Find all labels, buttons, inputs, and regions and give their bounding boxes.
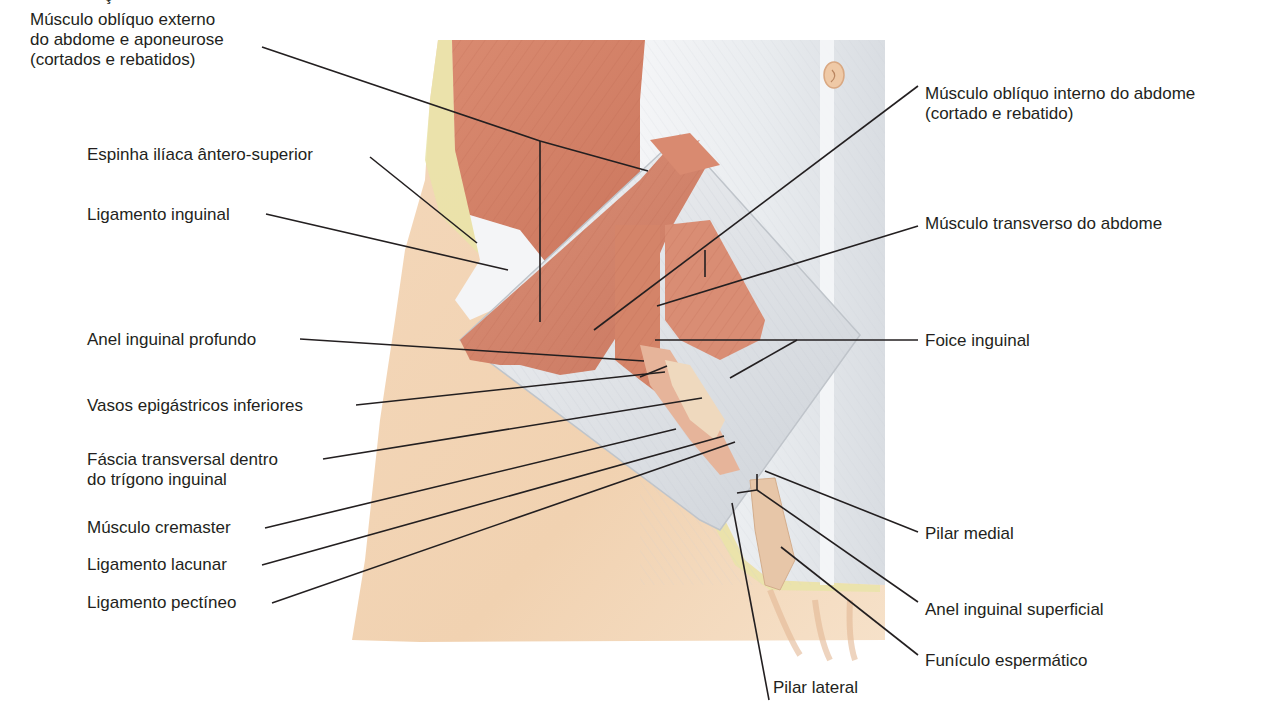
label-line: Vasos epigástricos inferiores bbox=[87, 396, 303, 416]
label-pectineal-ligament: Ligamento pectíneo bbox=[87, 593, 236, 613]
label-medial-crus: Pilar medial bbox=[925, 524, 1014, 544]
label-line: Músculo oblíquo externo bbox=[30, 10, 224, 30]
label-spermatic-cord: Funículo espermático bbox=[925, 651, 1088, 671]
label-line: Pilar lateral bbox=[773, 678, 858, 698]
label-deep-inguinal-ring: Anel inguinal profundo bbox=[87, 330, 256, 350]
label-inguinal-falx: Foice inguinal bbox=[925, 331, 1030, 351]
label-internal-oblique: Músculo oblíquo interno do abdome (corta… bbox=[925, 84, 1195, 124]
label-line: do trígono inguinal bbox=[87, 470, 278, 490]
label-lacunar-ligament: Ligamento lacunar bbox=[87, 555, 227, 575]
label-anterior-superior-iliac-spine: Espinha ilíaca ântero-superior bbox=[87, 145, 313, 165]
label-line: Espinha ilíaca ântero-superior bbox=[87, 145, 313, 165]
label-line: Funículo espermático bbox=[925, 651, 1088, 671]
label-line: do abdome e aponeurose bbox=[30, 30, 224, 50]
label-line: Ligamento pectíneo bbox=[87, 593, 236, 613]
inguinal-region-figure: ç bbox=[0, 0, 1275, 718]
label-line: Músculo oblíquo interno do abdome bbox=[925, 84, 1195, 104]
label-line: Fáscia transversal dentro bbox=[87, 450, 278, 470]
label-line: Pilar medial bbox=[925, 524, 1014, 544]
label-inferior-epigastric-vessels: Vasos epigástricos inferiores bbox=[87, 396, 303, 416]
label-lateral-crus: Pilar lateral bbox=[773, 678, 858, 698]
label-line: Anel inguinal profundo bbox=[87, 330, 256, 350]
label-transversus-abdominis: Músculo transverso do abdome bbox=[925, 214, 1162, 234]
label-external-oblique: Músculo oblíquo externo do abdome e apon… bbox=[30, 10, 224, 70]
label-inguinal-ligament: Ligamento inguinal bbox=[87, 205, 230, 225]
label-line: Anel inguinal superficial bbox=[925, 600, 1104, 620]
label-transversalis-fascia: Fáscia transversal dentro do trígono ing… bbox=[87, 450, 278, 490]
label-line: Músculo transverso do abdome bbox=[925, 214, 1162, 234]
label-superficial-inguinal-ring: Anel inguinal superficial bbox=[925, 600, 1104, 620]
label-line: (cortado e rebatido) bbox=[925, 104, 1195, 124]
label-line: Músculo cremaster bbox=[87, 518, 231, 538]
label-line: Foice inguinal bbox=[925, 331, 1030, 351]
label-line: Ligamento lacunar bbox=[87, 555, 227, 575]
label-cremaster-muscle: Músculo cremaster bbox=[87, 518, 231, 538]
label-line: Ligamento inguinal bbox=[87, 205, 230, 225]
label-line: (cortados e rebatidos) bbox=[30, 50, 224, 70]
